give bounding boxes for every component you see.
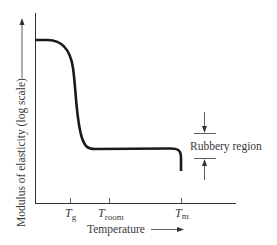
x-arrow-icon (151, 227, 184, 232)
y-arrow-icon (20, 18, 25, 78)
y-axis-label: Modulus of elasticity (log scale) (15, 78, 28, 227)
tick-label-tg: Tg (65, 206, 77, 222)
rubbery-region-label: Rubbery region (190, 140, 262, 153)
tick-label-troom: Troom (98, 206, 124, 222)
x-axis-label: Temperature (87, 223, 145, 236)
tick-label-tm: Tm (175, 206, 189, 221)
y-axis-label-group: Modulus of elasticity (log scale) (15, 78, 28, 227)
modulus-curve (35, 40, 181, 171)
modulus-temperature-diagram: Modulus of elasticity (log scale) Tg Tro… (0, 0, 277, 245)
